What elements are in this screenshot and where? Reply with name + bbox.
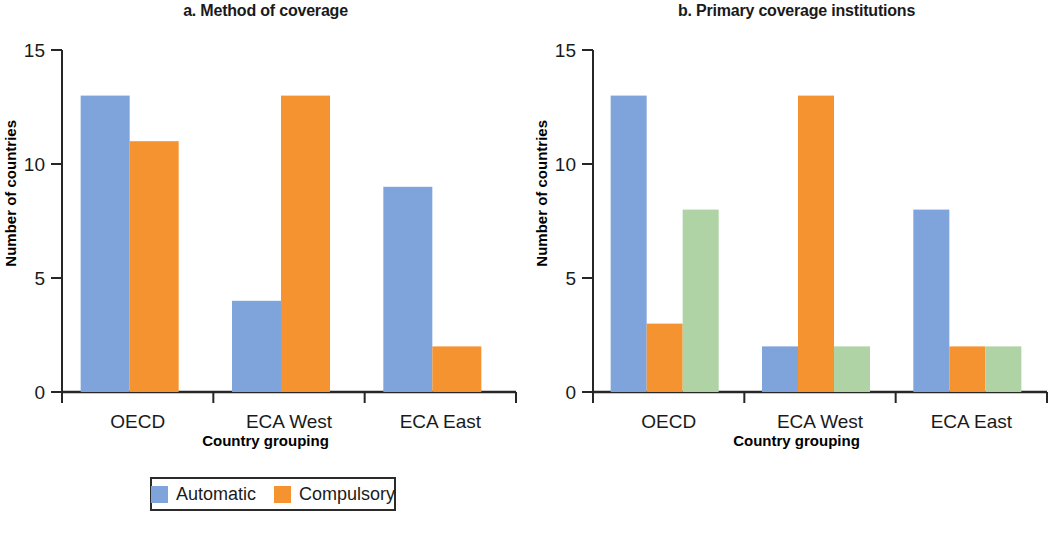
legend-swatch-icon [274,486,291,503]
y-tick-label: 15 [24,40,45,61]
panel-a-legend: AutomaticCompulsory [150,477,396,511]
bar [834,346,870,392]
y-tick-label: 0 [565,382,576,403]
legend-label: Automatic [176,484,256,505]
panel-b-plot-area: 051015OECDECA WestECA East [531,28,1062,428]
x-category-label: OECD [110,411,165,428]
bar [913,210,949,392]
bar [949,346,985,392]
x-category-label: ECA West [777,411,864,428]
panel-a-chart: 051015OECDECA WestECA East [0,28,531,428]
legend-label: Compulsory [299,484,395,505]
bar [432,346,481,392]
x-category-label: OECD [641,411,696,428]
y-tick-label: 5 [34,268,45,289]
y-tick-label: 5 [565,268,576,289]
bar [611,96,647,392]
panel-b-chart: 051015OECDECA WestECA East [531,28,1062,428]
panel-b: b. Primary coverage institutions Number … [531,0,1062,550]
y-tick-label: 15 [555,40,576,61]
panel-a-plot-area: 051015OECDECA WestECA East [0,28,531,428]
bar [647,324,683,392]
legend-swatch-icon [151,486,168,503]
panel-a: a. Method of coverage Number of countrie… [0,0,531,550]
bar [683,210,719,392]
bar [81,96,130,392]
bar [281,96,330,392]
y-tick-label: 10 [24,154,45,175]
y-tick-label: 10 [555,154,576,175]
figure-container: a. Method of coverage Number of countrie… [0,0,1062,550]
panel-b-title: b. Primary coverage institutions [531,2,1062,20]
panel-a-title: a. Method of coverage [0,2,531,20]
legend-item[interactable]: Compulsory [274,484,395,505]
panel-b-x-axis-title: Country grouping [531,432,1062,449]
bar [762,346,798,392]
x-category-label: ECA West [246,411,333,428]
legend-item[interactable]: Automatic [151,484,256,505]
x-category-label: ECA East [400,411,482,428]
bar [985,346,1021,392]
bar [232,301,281,392]
x-category-label: ECA East [931,411,1013,428]
bar [798,96,834,392]
bar [383,187,432,392]
bar [130,141,179,392]
panel-a-x-axis-title: Country grouping [0,432,531,449]
y-tick-label: 0 [34,382,45,403]
